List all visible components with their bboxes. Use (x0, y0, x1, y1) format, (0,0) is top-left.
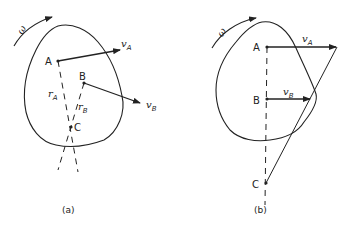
point-a-label: A (45, 56, 52, 67)
vb-label: vB (146, 99, 157, 113)
panel-a: ω A B C vA vB rA rB (a) (14, 17, 157, 215)
instant-center-diagram: ω A B C vA vB rA rB (a) ω A B C (0, 0, 347, 225)
velocity-vector-va (58, 50, 120, 61)
point-b-label: B (79, 71, 86, 82)
omega-label-b: ω (215, 26, 229, 39)
point-c-label: C (74, 122, 81, 133)
velocity-vector-vb (84, 83, 140, 103)
ra-label: rA (48, 88, 58, 102)
point-c-dot (69, 125, 72, 128)
vb-label-b: vB (283, 86, 294, 100)
point-b-label-b: B (253, 95, 260, 106)
radius-line-ra (58, 61, 78, 172)
point-c-label-b: C (252, 179, 259, 190)
point-a-label-b: A (253, 42, 260, 53)
rb-label: rB (78, 101, 88, 115)
velocity-profile-line (266, 47, 337, 183)
omega-label-a: ω (15, 23, 29, 36)
caption-a: (a) (62, 205, 75, 215)
caption-b: (b) (254, 205, 267, 215)
va-label-b: vA (302, 33, 313, 47)
panel-b: ω A B C vA vB (b) (212, 18, 337, 215)
va-label: vA (121, 38, 132, 52)
